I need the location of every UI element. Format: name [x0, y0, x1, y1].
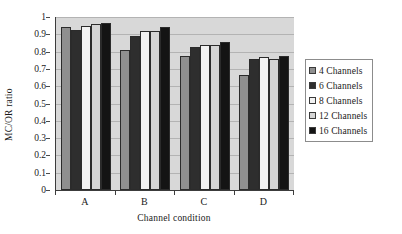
y-axis-tick-mark: [46, 104, 50, 105]
legend: 4 Channels6 Channels8 Channels12 Channel…: [305, 59, 373, 142]
bar: [130, 36, 140, 190]
legend-swatch-icon: [309, 112, 316, 119]
bar: [220, 42, 230, 190]
legend-item: 16 Channels: [309, 123, 367, 138]
y-axis-tick-mark: [46, 86, 50, 87]
legend-swatch-icon: [309, 127, 316, 134]
legend-swatch-icon: [309, 67, 316, 74]
bar-group: [56, 17, 116, 190]
bar-groups: [56, 17, 294, 190]
bar: [180, 56, 190, 190]
y-axis-tick-mark: [46, 155, 50, 156]
bar-group-bars: [239, 17, 289, 190]
y-axis-tick-mark: [46, 69, 50, 70]
bar: [200, 45, 210, 190]
y-axis-tick-label: 0.9: [34, 29, 46, 39]
x-axis-tick-mark: [293, 190, 294, 195]
bar-group: [116, 17, 176, 190]
legend-item: 12 Channels: [309, 108, 367, 123]
x-axis-tick-mark: [115, 190, 116, 195]
legend-item: 8 Channels: [309, 93, 367, 108]
x-axis-tick-label: B: [115, 196, 175, 212]
bar: [160, 27, 170, 190]
legend-swatch-icon: [309, 97, 316, 104]
x-axis-tick-label: C: [174, 196, 234, 212]
legend-swatch-icon: [309, 82, 316, 89]
x-axis-title: Channel condition: [55, 213, 293, 223]
legend-label: 12 Channels: [319, 111, 367, 121]
bar: [239, 75, 249, 190]
bar-group-bars: [180, 17, 230, 190]
x-axis-tick-mark: [55, 190, 56, 195]
bar: [71, 30, 81, 190]
bar: [269, 59, 279, 190]
y-axis-tick-labels: 00.10.20.30.40.50.60.70.80.91: [14, 0, 50, 234]
plot-area: [55, 17, 294, 191]
x-axis-tick-mark: [174, 190, 175, 195]
bar: [259, 57, 269, 190]
bar: [190, 47, 200, 190]
bar: [210, 45, 220, 190]
y-axis-tick-label: 0.5: [34, 99, 46, 109]
x-axis-tick-labels: ABCD: [55, 196, 293, 212]
y-axis-tick-label: 0.2: [34, 150, 46, 160]
bar: [81, 26, 91, 190]
y-axis-tick-label: 0.8: [34, 47, 46, 57]
y-axis-tick-mark: [46, 173, 50, 174]
y-axis-tick-mark: [46, 52, 50, 53]
x-axis-tick-mark: [234, 190, 235, 195]
bar: [101, 23, 111, 190]
bar: [279, 56, 289, 190]
y-axis-tick-label: 0.6: [34, 81, 46, 91]
y-axis-tick-mark: [46, 121, 50, 122]
legend-label: 8 Channels: [319, 96, 362, 106]
bar-group-bars: [120, 17, 170, 190]
legend-item: 6 Channels: [309, 78, 367, 93]
x-axis-tick-label: A: [55, 196, 115, 212]
y-axis-tick-label: 0.7: [34, 64, 46, 74]
y-axis-tick-mark: [46, 138, 50, 139]
bar: [150, 31, 160, 190]
y-axis-tick-label: 0.1: [34, 168, 46, 178]
bar-group-bars: [61, 17, 111, 190]
y-axis-tick-mark: [46, 34, 50, 35]
bar-chart-figure: MC/OR ratio 00.10.20.30.40.50.60.70.80.9…: [0, 0, 402, 234]
legend-label: 4 Channels: [319, 66, 362, 76]
bar: [61, 27, 71, 190]
bar-group: [235, 17, 295, 190]
bar: [140, 31, 150, 190]
x-axis-tick-label: D: [234, 196, 294, 212]
bar: [249, 59, 259, 190]
y-axis-tick-label: 0.4: [34, 116, 46, 126]
y-axis-tick-mark: [46, 17, 50, 18]
legend-label: 16 Channels: [319, 126, 367, 136]
bar: [120, 50, 130, 190]
legend-label: 6 Channels: [319, 81, 362, 91]
legend-item: 4 Channels: [309, 63, 367, 78]
y-axis-tick-label: 0.3: [34, 133, 46, 143]
bar-group: [175, 17, 235, 190]
bar: [91, 24, 101, 190]
y-axis-tick-mark: [46, 190, 50, 191]
